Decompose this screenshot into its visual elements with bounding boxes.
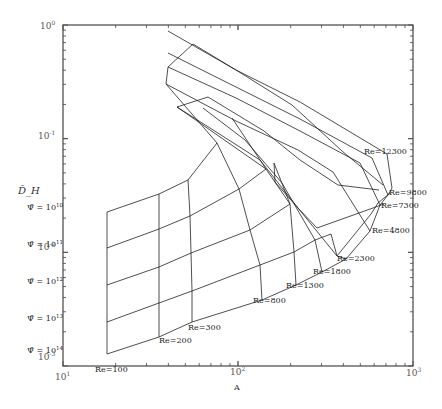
plot-frame bbox=[63, 25, 413, 366]
series-re-800 bbox=[217, 143, 262, 300]
series-re-1300 bbox=[232, 118, 296, 285]
re-label: Re=2300 bbox=[337, 254, 375, 263]
y-tick-label-1e-1: 10-1 bbox=[38, 129, 55, 141]
re-label: Re=800 bbox=[253, 296, 286, 305]
x-axis-title: A bbox=[233, 383, 240, 392]
psi-label: Ψ̄ = 1010 bbox=[27, 202, 63, 212]
series-re-7300 bbox=[168, 67, 380, 205]
psi-label: Ψ̄ = 1013 bbox=[27, 313, 63, 323]
axis-ticks bbox=[63, 25, 413, 366]
series-psi-1e11 bbox=[107, 97, 379, 248]
y-axis-title: D̄_H bbox=[17, 185, 40, 197]
re-label: Re=9800 bbox=[389, 188, 427, 197]
x-tick-label-1e1: 101 bbox=[55, 370, 70, 382]
x-tick-label-1e2: 102 bbox=[230, 365, 245, 377]
y-tick-label-1e-2: 10-2 bbox=[38, 240, 55, 252]
y-tick-label-1e-3: 10-3 bbox=[38, 350, 55, 362]
series-re-1800 bbox=[203, 108, 322, 272]
y-tick-label-1e0: 100 bbox=[40, 19, 55, 31]
psi-label: Ψ̄ = 1012 bbox=[27, 276, 63, 286]
re-label: Re=300 bbox=[188, 323, 221, 332]
series-re-300 bbox=[188, 180, 192, 322]
series-psi-1e10 bbox=[107, 44, 383, 212]
re-label: Re=7300 bbox=[381, 201, 419, 210]
x-tick-label-1e3: 103 bbox=[406, 366, 421, 378]
re-label: Re=100 bbox=[95, 365, 128, 374]
re-label: Re=4800 bbox=[372, 226, 410, 235]
annotations: Ψ̄ = 1010Ψ̄ = 1011Ψ̄ = 1012Ψ̄ = 1013Ψ̄ =… bbox=[27, 147, 427, 374]
carpet-plot-chart: Ψ̄ = 1010Ψ̄ = 1011Ψ̄ = 1012Ψ̄ = 1013Ψ̄ =… bbox=[0, 0, 442, 409]
re-label: Re=1300 bbox=[286, 281, 324, 290]
re-label: Re=1800 bbox=[313, 267, 351, 276]
carpet-grid bbox=[107, 31, 392, 354]
re-label: Re=200 bbox=[159, 336, 192, 345]
re-label: Re=12300 bbox=[364, 147, 407, 156]
series-re-4800 bbox=[166, 84, 370, 231]
